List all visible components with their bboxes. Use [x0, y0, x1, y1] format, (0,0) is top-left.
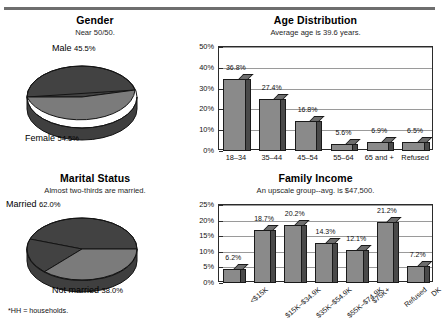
marital-notmarried-text: Not married [52, 285, 99, 295]
header-divider [4, 7, 435, 10]
marital-pie-chart: Married 62.0% Not married 38.0% [0, 199, 190, 309]
bar-value-label: 12.1% [341, 235, 372, 242]
panel-marital-status: Marital Status Almost two-thirds are mar… [0, 172, 190, 322]
y-axis-tick-label: 15% [192, 231, 214, 240]
bar[interactable] [331, 144, 353, 151]
y-axis-tick-label: 10% [192, 246, 214, 255]
x-axis-tick-label: Refused [402, 285, 428, 309]
gender-title: Gender [0, 14, 190, 26]
age-subtitle: Average age is 39.6 years. [192, 28, 439, 37]
gender-subtitle: Near 50/50. [0, 28, 190, 37]
panel-gender: Gender Near 50/50. Male 45.5% Female 54.… [0, 14, 190, 164]
bar-value-label: 6.2% [218, 254, 249, 261]
bar[interactable] [295, 121, 317, 151]
y-axis-tick-label: 25% [192, 200, 214, 209]
marital-subtitle: Almost two-thirds are married. [0, 186, 190, 195]
bar[interactable] [377, 222, 395, 283]
bar-value-label: 27.4% [254, 84, 289, 91]
gender-female-text: Female [25, 133, 55, 143]
gridline [219, 109, 432, 110]
bar-side-face [394, 222, 399, 283]
gridline [219, 205, 432, 206]
bar-side-face [281, 99, 286, 151]
bar-side-face [246, 79, 251, 151]
gridline [219, 47, 432, 48]
y-axis-tick-label: 20% [192, 215, 214, 224]
bar[interactable] [346, 250, 364, 283]
y-axis-tick-label: 50% [192, 42, 214, 51]
y-tick-mark [219, 47, 223, 48]
x-axis-tick-label: DK [429, 285, 442, 298]
bar-value-label: 20.2% [279, 210, 310, 217]
y-axis-tick-label: 5% [192, 262, 214, 271]
bar[interactable] [315, 243, 333, 283]
income-bar-chart: 0%5%10%15%20%25%6.2%<$15K18.7%$15K–$34.9… [192, 198, 439, 328]
y-axis-tick-label: 0% [192, 146, 214, 155]
bar[interactable] [223, 79, 245, 151]
bar-side-face [353, 144, 358, 151]
bar[interactable] [284, 225, 302, 283]
bar-side-face [364, 250, 369, 283]
bar-value-label: 18.7% [249, 215, 280, 222]
gender-pie-chart: Male 45.5% Female 54.5% [0, 43, 190, 153]
bar-value-label: 6.5% [397, 127, 432, 134]
y-axis-tick-label: 30% [192, 83, 214, 92]
bar-side-face [333, 243, 338, 283]
y-axis-tick-label: 20% [192, 104, 214, 113]
y-tick-mark [219, 205, 223, 206]
bar[interactable] [254, 230, 272, 283]
bar-side-face [389, 142, 394, 151]
marital-notmarried-pct: 38.0% [102, 286, 124, 295]
marital-label-not-married: Not married 38.0% [52, 285, 123, 295]
bar-value-label: 5.6% [326, 129, 361, 136]
gridline [219, 89, 432, 90]
bar-value-label: 7.2% [402, 251, 433, 258]
gender-female-pct: 54.5% [58, 134, 80, 143]
bar[interactable] [259, 99, 281, 151]
y-tick-mark [219, 236, 223, 237]
gridline [219, 236, 432, 237]
y-tick-mark [219, 283, 223, 284]
y-tick-mark [219, 151, 223, 152]
marital-title: Marital Status [0, 172, 190, 184]
bar-value-label: 16.8% [290, 106, 325, 113]
bar-side-face [425, 266, 430, 283]
age-bar-chart: 0%10%20%30%40%50%36.8%18–3427.4%35–4416.… [192, 42, 439, 166]
bar-side-face [302, 225, 307, 283]
income-title: Family Income [192, 172, 439, 184]
y-tick-mark [219, 221, 223, 222]
bar-value-label: 6.9% [362, 127, 397, 134]
y-axis-tick-label: 0% [192, 278, 214, 287]
y-axis-tick-label: 40% [192, 62, 214, 71]
bar-side-face [271, 230, 276, 283]
x-axis-tick-label: Refused [391, 153, 439, 162]
income-subtitle: An upscale group--avg. is $47,500. [192, 186, 439, 195]
bar-side-face [317, 121, 322, 151]
bar[interactable] [407, 266, 425, 283]
x-axis-tick-label: <$15K [247, 285, 269, 305]
bar[interactable] [367, 142, 389, 151]
y-tick-mark [219, 252, 223, 253]
bar[interactable] [223, 269, 241, 283]
gender-label-female: Female 54.5% [25, 133, 79, 143]
footnote-hh: *HH = households. [8, 306, 68, 315]
bar-value-label: 21.2% [372, 207, 403, 214]
panel-family-income: Family Income An upscale group--avg. is … [192, 172, 439, 328]
bar-value-label: 36.8% [218, 64, 253, 71]
bar-side-face [425, 142, 430, 151]
bar-value-label: 14.3% [310, 228, 341, 235]
bar-side-face [241, 269, 246, 283]
panel-age-distribution: Age Distribution Average age is 39.6 yea… [192, 14, 439, 166]
age-title: Age Distribution [192, 14, 439, 26]
y-axis-tick-label: 10% [192, 125, 214, 134]
bar[interactable] [402, 142, 424, 151]
